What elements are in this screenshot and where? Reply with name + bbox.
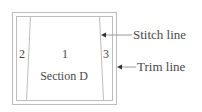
section-label-1: 1 — [62, 47, 68, 61]
stitch-line-left — [27, 17, 31, 101]
trim-line-label: Trim line — [137, 59, 186, 74]
section-label-2: 2 — [19, 47, 25, 61]
arrow-left-icon — [101, 33, 106, 38]
section-label-3: 3 — [103, 47, 109, 61]
stitch-line-label: Stitch line — [133, 27, 186, 42]
section-name: Section D — [40, 69, 88, 83]
arrow-left-icon — [117, 65, 122, 70]
paper-piecing-diagram: 2 1 3 Section D Stitch line Trim line — [0, 0, 202, 112]
